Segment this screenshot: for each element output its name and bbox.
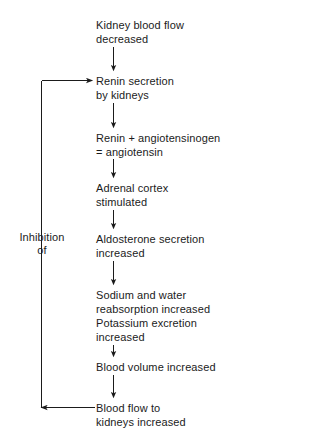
node-blood-volume: Blood volume increased	[96, 360, 216, 374]
node-adrenal-cortex: Adrenal cortex stimulated	[96, 181, 168, 209]
flowchart-page: Kidney blood flow decreased Renin secret…	[0, 0, 312, 438]
node-kidney-blood-flow: Kidney blood flow decreased	[96, 18, 184, 46]
feedback-loop-label: Inhibition of	[6, 231, 78, 257]
node-renin-angiotensinogen: Renin + angiotensinogen = angiotensin	[96, 131, 220, 159]
node-sodium-water-potassium: Sodium and water reabsorption increased …	[96, 288, 210, 344]
node-aldosterone-secretion: Aldosterone secretion increased	[96, 232, 205, 260]
node-renin-secretion: Renin secretion by kidneys	[96, 74, 174, 102]
node-blood-flow-kidneys: Blood flow to kidneys increased	[96, 401, 186, 429]
